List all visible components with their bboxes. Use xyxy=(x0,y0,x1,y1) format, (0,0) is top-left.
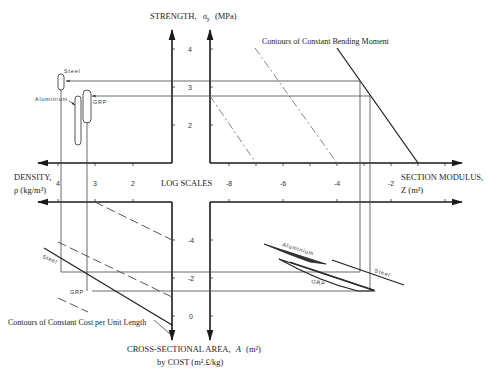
axis-titles: STRENGTH, σy (MPa) DENSITY, ρ (kg/m³) LO… xyxy=(14,11,483,367)
strength-axis-title: STRENGTH, σy (MPa) xyxy=(150,11,237,23)
modulus-tick-8: -8 xyxy=(226,180,232,187)
modulus-tick-4: -4 xyxy=(334,180,340,187)
strength-tick-4: 4 xyxy=(188,46,192,53)
modulus-tick-6: -6 xyxy=(280,180,286,187)
grp-label-bottom-left: GRP xyxy=(70,289,84,295)
bending-moment-annotation: Contours of Constant Bending Moment xyxy=(262,37,389,46)
bending-contour-dashed-1 xyxy=(255,48,337,163)
bending-contour-dashed-2 xyxy=(210,96,256,163)
steel-region xyxy=(58,74,64,90)
density-axis-title: DENSITY, xyxy=(14,172,51,182)
tick-labels: 4 3 2 4 3 2 -8 -6 -4 -2 -4 -2 0 xyxy=(56,46,394,320)
strength-tick-3: 3 xyxy=(188,84,192,91)
bending-contours xyxy=(210,48,418,163)
material-traces xyxy=(61,81,370,291)
aluminium-label: Aluminium xyxy=(35,96,68,102)
density-tick-2: 2 xyxy=(131,180,135,187)
area-axis-title: CROSS-SECTIONAL AREA, A (m²) xyxy=(127,344,261,354)
steel-label: Steel xyxy=(64,68,81,74)
area-axis-subtitle: by COST (m².£/kg) xyxy=(157,357,224,367)
grp-label: GRP xyxy=(93,99,107,105)
grp-region xyxy=(83,90,91,123)
area-tick-neg4: -4 xyxy=(188,237,194,244)
cost-contours xyxy=(44,202,172,334)
section-modulus-axis-unit: Z (m³) xyxy=(401,185,423,195)
area-tick-neg2: -2 xyxy=(188,275,194,282)
steel-line xyxy=(332,260,404,285)
grp-label-bottom-right: GRP xyxy=(311,278,326,287)
aluminium-label-bottom-right: Aluminium xyxy=(282,241,315,256)
density-tick-3: 3 xyxy=(93,180,97,187)
area-modulus-curves xyxy=(264,244,404,291)
aluminium-pointer xyxy=(69,101,75,105)
material-selection-diagram: 4 3 2 4 3 2 -8 -6 -4 -2 -4 -2 0 STRENGTH… xyxy=(0,0,490,376)
density-axis-unit: ρ (kg/m³) xyxy=(14,185,46,195)
strength-tick-2: 2 xyxy=(188,122,192,129)
steel-label-bottom-right: Steel xyxy=(374,267,392,278)
section-modulus-axis-title: SECTION MODULUS, xyxy=(401,172,483,182)
cost-contour-dashed-3 xyxy=(58,298,88,312)
axes xyxy=(38,30,462,340)
log-scales-label: LOG SCALES xyxy=(161,178,213,188)
grp-wedge-inner xyxy=(290,262,374,290)
area-tick-0: 0 xyxy=(189,313,193,320)
modulus-tick-2: -2 xyxy=(388,180,394,187)
material-regions xyxy=(58,74,91,145)
cost-annotation: Contours of Constant Cost per Unit Lengt… xyxy=(8,318,146,327)
bending-contour-solid xyxy=(337,48,418,163)
cost-contour-solid xyxy=(44,248,172,325)
cost-contour-dashed-1 xyxy=(95,202,172,240)
aluminium-region xyxy=(75,96,81,145)
density-tick-4: 4 xyxy=(56,180,60,187)
material-labels-top: Steel Aluminium GRP xyxy=(35,68,107,105)
